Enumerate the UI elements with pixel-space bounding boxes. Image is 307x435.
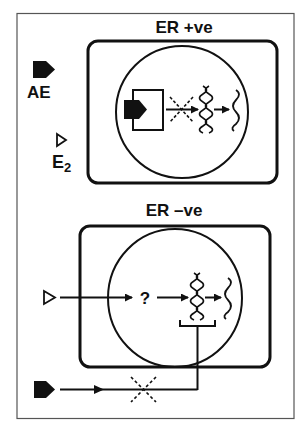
legend: AE E2 [27, 61, 71, 175]
double-helix-icon [200, 86, 213, 133]
panel-title-er-negative: ER –ve [146, 201, 203, 220]
wavy-line-icon [232, 90, 239, 131]
filled-pentagon-icon [33, 61, 55, 78]
panel-er-negative: ER –ve ? [34, 201, 270, 402]
bracket [180, 320, 215, 326]
AE-filled-pentagon-icon [34, 381, 55, 398]
panel-title-er-positive: ER +ve [155, 18, 212, 37]
legend-label-E2: E2 [52, 152, 71, 175]
er-diagram: ER +ve AE E2 ER –ve [0, 0, 307, 435]
double-helix-icon [191, 273, 204, 320]
legend-label-AE: AE [27, 83, 51, 102]
unknown-mediator: ? [140, 289, 150, 308]
E2-outline-triangle-icon [44, 291, 55, 304]
outline-triangle-icon [57, 134, 66, 146]
panel-er-positive: ER +ve [88, 18, 277, 183]
wavy-line-icon [224, 278, 231, 319]
AE-arrowhead [94, 385, 104, 394]
